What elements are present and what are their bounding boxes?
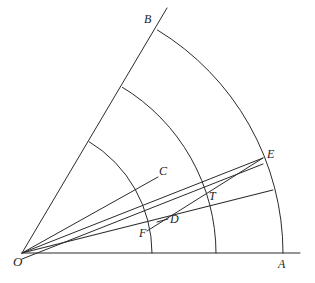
point-label-d: D	[170, 213, 179, 225]
ray-oc	[22, 177, 158, 253]
geometry-figure: O A B C D E F T	[0, 0, 315, 283]
point-label-e: E	[267, 148, 274, 160]
point-label-c: C	[159, 165, 167, 177]
point-label-o: O	[13, 255, 22, 268]
point-label-a: A	[278, 258, 285, 270]
geometry-canvas	[0, 0, 315, 283]
point-label-f: F	[139, 227, 146, 239]
ray-ob	[22, 8, 167, 253]
point-label-b: B	[144, 13, 151, 25]
ray-od	[22, 160, 273, 283]
chord-fe	[22, 164, 263, 259]
point-label-t: T	[209, 190, 216, 202]
middle-arc	[122, 87, 216, 253]
